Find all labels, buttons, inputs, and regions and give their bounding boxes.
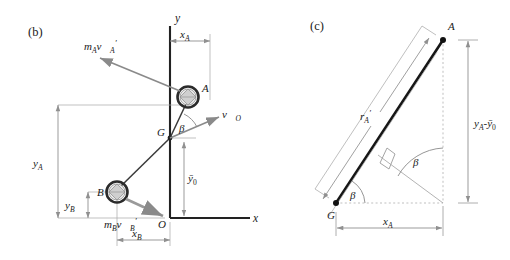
point-A-label-c: A xyxy=(447,20,455,32)
dimc-s2: 0 xyxy=(492,123,496,132)
beta-label-b: β xyxy=(178,122,185,134)
velocity-O-sub: O xyxy=(235,114,241,123)
figure-canvas: (b) y x O G A xyxy=(0,0,510,260)
point-B-label: B xyxy=(97,186,104,198)
dim-yB-sub: B xyxy=(70,205,75,214)
panel-c-tag: (c) xyxy=(310,19,324,33)
beta-label-at-corner: β xyxy=(412,156,419,168)
point-A-label: A xyxy=(201,82,209,94)
point-G-marker-c xyxy=(333,200,339,206)
momentum-B-m: m xyxy=(104,218,112,230)
dim-xB-sub: B xyxy=(137,233,142,242)
dim-xA-c-sub: A xyxy=(387,221,393,230)
dim-xA-b-sub: A xyxy=(184,34,190,43)
momentum-A-m: m xyxy=(84,40,92,52)
ball-B xyxy=(107,182,128,203)
momentum-B-v: v⃗ xyxy=(117,218,130,230)
origin-label: O xyxy=(158,218,166,230)
dim-ybar0-sub: 0 xyxy=(193,178,197,187)
x-axis-label: x xyxy=(252,212,259,224)
physics-figure: (b) y x O G A xyxy=(0,0,510,260)
panel-b-tag: (b) xyxy=(28,25,43,39)
point-A-marker-c xyxy=(440,37,446,43)
point-G-label: G xyxy=(157,126,165,138)
point-G-label-c: G xyxy=(327,209,335,221)
momentum-A-v: v⃗ xyxy=(97,40,110,52)
beta-label-at-G: β xyxy=(349,189,356,201)
velocity-O-v: v⃗ xyxy=(222,108,235,120)
y-axis-label: y xyxy=(174,12,181,25)
ball-A xyxy=(178,87,199,108)
dim-yA-sub: A xyxy=(37,163,43,172)
